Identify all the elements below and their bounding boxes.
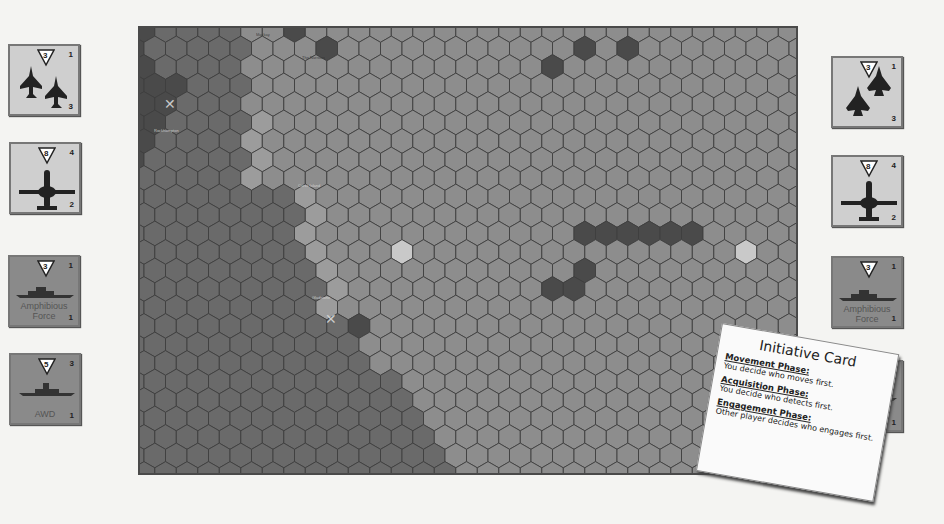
counter-left-amphibious-force[interactable]: 3 1 1 Amphibious Force: [8, 255, 80, 327]
hex-map-board[interactable]: MackayThe NarrowsRockhamptonCurtis Islan…: [138, 26, 798, 475]
twin-fighter-jets-icon: [18, 64, 72, 110]
awacs-aircraft-icon: [17, 168, 77, 212]
range-value: 8: [44, 149, 48, 158]
map-label: Rockhampton: [154, 128, 179, 133]
destroyer-ship-icon: [17, 381, 77, 397]
top-value: 1: [892, 262, 896, 271]
map-label: The Narrows: [302, 55, 325, 60]
range-value: 3: [866, 263, 870, 272]
twin-stealth-fighters-icon: [841, 64, 897, 124]
range-value: 3: [43, 262, 47, 271]
airbase-icon[interactable]: ✕: [164, 96, 176, 112]
range-value: 8: [866, 162, 870, 171]
counter-right-awacs[interactable]: 8 4 2: [831, 155, 903, 227]
range-value: 3: [43, 51, 47, 60]
top-value: 1: [69, 261, 73, 270]
top-value: 4: [70, 148, 74, 157]
top-value: 3: [70, 359, 74, 368]
amphibious-ship-icon: [837, 288, 899, 302]
counter-right-fighters[interactable]: 3 1 3: [831, 56, 903, 128]
port-icon[interactable]: ✕: [325, 311, 337, 327]
top-value: 4: [892, 161, 896, 170]
counter-label: AWD: [11, 409, 79, 419]
awacs-aircraft-icon: [839, 179, 899, 223]
hex-grid[interactable]: [140, 28, 798, 475]
counter-left-fighters[interactable]: 3 1 3: [8, 44, 80, 116]
counter-label: Amphibious Force: [833, 304, 901, 324]
amphibious-ship-icon: [14, 285, 76, 299]
counter-left-awacs[interactable]: 8 4 2: [9, 142, 81, 214]
range-value: 5: [44, 360, 48, 369]
counter-left-awd[interactable]: 5 3 1 AWD: [9, 353, 81, 425]
counter-right-amphibious-force[interactable]: 3 1 1 Amphibious Force: [831, 256, 903, 328]
map-label: Mackay: [256, 32, 270, 37]
map-label: Gladstone: [312, 295, 330, 300]
counter-label: Amphibious Force: [10, 301, 78, 321]
map-label: Curtis Island: [298, 183, 320, 188]
top-value: 1: [69, 50, 73, 59]
initiative-card[interactable]: Initiative Card Movement Phase: You deci…: [696, 323, 899, 502]
